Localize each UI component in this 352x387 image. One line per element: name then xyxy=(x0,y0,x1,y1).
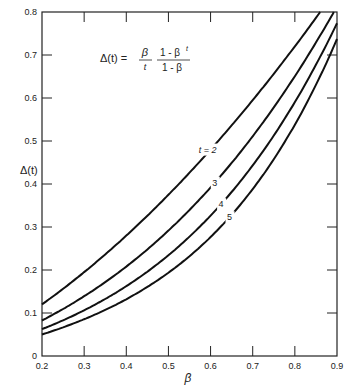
y-tick-label: 0.4 xyxy=(24,179,37,189)
formula-den2: 1 - β xyxy=(162,62,182,73)
y-tick-label: 0.5 xyxy=(24,136,37,146)
curve-t4 xyxy=(42,23,337,329)
formula-lhs: Δ(t) = xyxy=(100,52,127,64)
formula-num2: 1 - β xyxy=(160,47,180,58)
curve-label: 5 xyxy=(227,212,232,222)
formula-num1: β xyxy=(141,46,149,58)
curve-t5 xyxy=(42,39,337,335)
x-tick-label: 0.2 xyxy=(36,361,49,371)
y-tick-label: 0.2 xyxy=(24,265,37,275)
curve-t2 xyxy=(42,12,320,304)
curve-t3 xyxy=(42,12,334,321)
x-tick-label: 0.8 xyxy=(289,361,302,371)
plot-frame xyxy=(42,12,337,356)
curve-label: t = 2 xyxy=(199,145,217,155)
y-tick-label: 0.7 xyxy=(24,50,37,60)
x-tick-label: 0.7 xyxy=(246,361,259,371)
x-tick-label: 0.4 xyxy=(120,361,133,371)
y-tick-label: 0.1 xyxy=(24,308,37,318)
formula-annotation: Δ(t) = β t 1 - β t 1 - β xyxy=(100,45,190,73)
curve-label: 4 xyxy=(219,199,224,209)
y-tick-label: 0.6 xyxy=(24,93,37,103)
x-tick-label: 0.3 xyxy=(78,361,91,371)
y-axis-label: Δ(t) xyxy=(20,164,38,176)
formula-num2-sup: t xyxy=(186,45,189,52)
y-tick-label: 0.3 xyxy=(24,222,37,232)
y-tick-label: 0.8 xyxy=(24,7,37,17)
curve-label: 3 xyxy=(212,178,217,188)
formula-den1: t xyxy=(144,62,147,72)
x-tick-label: 0.9 xyxy=(331,361,344,371)
x-axis-label: β xyxy=(184,371,192,385)
x-tick-label: 0.5 xyxy=(162,361,175,371)
chart-canvas: 0.20.30.40.50.60.70.80.900.10.20.30.40.5… xyxy=(0,0,352,387)
x-tick-label: 0.6 xyxy=(204,361,217,371)
y-tick-label: 0 xyxy=(32,351,37,361)
